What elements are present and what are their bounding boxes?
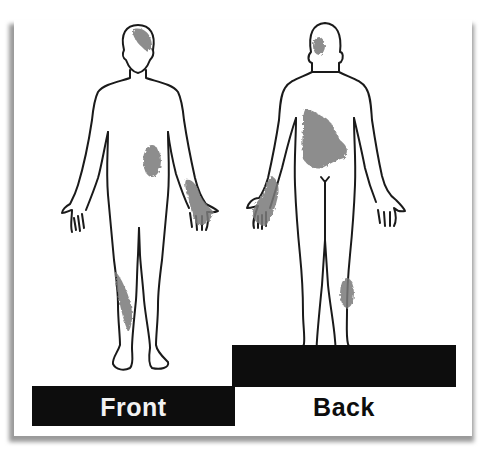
front-head-mark bbox=[133, 29, 152, 51]
front-label: Front bbox=[32, 387, 235, 427]
back-markings bbox=[252, 37, 354, 308]
back-label-bar bbox=[232, 345, 456, 387]
back-head-mark bbox=[313, 37, 325, 55]
back-calf-mark bbox=[340, 278, 354, 308]
back-label: Back bbox=[232, 387, 456, 427]
back-upper-back-mark bbox=[302, 110, 347, 169]
front-forearm-mark bbox=[185, 180, 214, 226]
front-abdomen-mark bbox=[143, 145, 161, 177]
